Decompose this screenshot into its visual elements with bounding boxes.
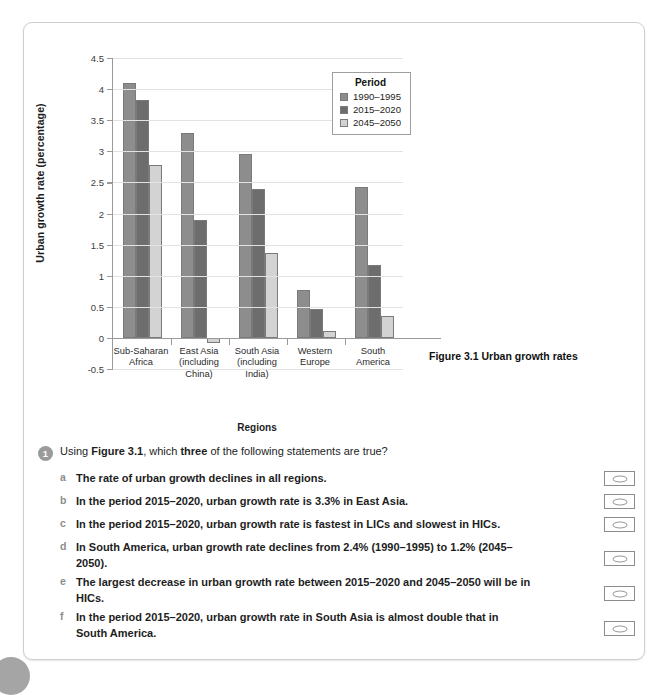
legend-swatch-icon: [340, 106, 348, 114]
y-axis-tick-label: 3.5: [91, 115, 104, 126]
answer-checkbox-d[interactable]: [604, 551, 635, 566]
grid-line: [113, 151, 403, 152]
legend-label: 2015–2020: [353, 104, 401, 115]
x-axis-extension: [403, 338, 441, 339]
answer-checkbox-c[interactable]: [604, 517, 635, 532]
answer-oval-icon: [612, 555, 627, 562]
y-axis-title: Urban growth rate (percentage): [34, 0, 46, 83]
x-axis-title: Regions: [112, 422, 402, 433]
bar: [194, 220, 207, 338]
bar: [323, 331, 336, 338]
grid-line: [113, 276, 403, 277]
x-axis-tick: [345, 338, 346, 345]
option-text: In the period 2015–2020, urban growth ra…: [76, 517, 531, 533]
x-axis-tick: [171, 338, 172, 345]
y-axis-tick: [107, 58, 113, 59]
answer-oval-icon: [612, 475, 627, 482]
bar: [149, 165, 162, 338]
answer-checkbox-e[interactable]: [604, 586, 635, 601]
y-axis-tick: [107, 307, 113, 308]
y-axis-tick: [107, 369, 113, 370]
option-letter: c: [60, 517, 72, 529]
prompt-segment: of the following statements are true?: [207, 445, 387, 457]
answer-checkbox-a[interactable]: [604, 471, 635, 486]
bar: [310, 309, 323, 338]
question-number-badge: 1: [38, 446, 53, 461]
option-letter: f: [60, 610, 72, 622]
question-prompt: Using Figure 3.1, which three of the fol…: [60, 445, 388, 457]
answer-oval-icon: [612, 498, 627, 505]
y-axis-tick: [107, 245, 113, 246]
answer-oval-icon: [612, 521, 627, 528]
y-axis-tick: [107, 120, 113, 121]
legend-item: 2045–2050: [340, 117, 401, 128]
bar: [265, 253, 278, 338]
grid-line: [113, 307, 403, 308]
option-text: In the period 2015–2020, urban growth ra…: [76, 610, 531, 641]
bar: [136, 100, 149, 338]
y-axis-tick-label: 1.5: [91, 239, 104, 250]
x-axis-tick: [229, 338, 230, 345]
legend-item: 2015–2020: [340, 104, 401, 115]
legend-swatch-icon: [340, 119, 348, 127]
y-axis-tick-label: 2: [99, 208, 104, 219]
bar: [355, 187, 368, 338]
x-axis-label-line: India): [220, 369, 294, 381]
bar: [381, 316, 394, 338]
prompt-figure-ref: Figure 3.1: [91, 445, 143, 457]
figure-chart: Urban growth rate (percentage) 4.543.532…: [24, 23, 646, 408]
option-letter: b: [60, 494, 72, 506]
bar: [297, 290, 310, 338]
y-axis-tick-label: 1: [99, 270, 104, 281]
prompt-segment: , which: [143, 445, 180, 457]
prompt-emphasis: three: [180, 445, 207, 457]
legend-label: 2045–2050: [353, 117, 401, 128]
option-text: The rate of urban growth declines in all…: [76, 471, 531, 487]
x-axis-tick: [287, 338, 288, 345]
legend-item: 1990–1995: [340, 91, 401, 102]
y-axis-tick: [107, 182, 113, 183]
answer-checkbox-b[interactable]: [604, 494, 635, 509]
option-text: In South America, urban growth rate decl…: [76, 540, 531, 571]
grid-line: [113, 245, 403, 246]
page-corner-badge: [0, 657, 30, 695]
grid-line: [113, 182, 403, 183]
answer-oval-icon: [612, 590, 627, 597]
answer-checkbox-f[interactable]: [604, 621, 635, 636]
y-axis-tick: [107, 214, 113, 215]
x-axis-line: [113, 338, 406, 339]
y-axis-tick-label: 4.5: [91, 53, 104, 64]
x-axis-label-line: America: [336, 357, 410, 369]
y-axis-tick: [107, 89, 113, 90]
answer-oval-icon: [612, 625, 627, 632]
y-axis-tick: [107, 276, 113, 277]
y-axis-tick-label: 3: [99, 146, 104, 157]
chart-legend: Period 1990–1995 2015–2020 2045–2050: [332, 72, 411, 135]
option-letter: d: [60, 540, 72, 552]
option-letter: e: [60, 575, 72, 587]
option-text: In the period 2015–2020, urban growth ra…: [76, 494, 531, 510]
option-text: The largest decrease in urban growth rat…: [76, 575, 531, 606]
y-axis-tick-label: 0: [99, 332, 104, 343]
figure-caption: Figure 3.1 Urban growth rates: [429, 350, 578, 362]
grid-line: [113, 58, 403, 59]
y-axis-tick-label: 2.5: [91, 177, 104, 188]
x-axis-category-label: SouthAmerica: [336, 346, 410, 369]
legend-title: Period: [340, 77, 401, 88]
x-axis-label-line: South: [336, 346, 410, 358]
y-axis-tick: [107, 151, 113, 152]
y-axis-tick-label: 4: [99, 84, 104, 95]
legend-label: 1990–1995: [353, 91, 401, 102]
prompt-segment: Using: [60, 445, 91, 457]
grid-line: [113, 214, 403, 215]
y-axis-tick-label: -0.5: [88, 364, 104, 375]
bar: [252, 189, 265, 338]
option-letter: a: [60, 471, 72, 483]
y-axis-tick-label: 0.5: [91, 301, 104, 312]
worksheet-card: Urban growth rate (percentage) 4.543.532…: [23, 22, 645, 660]
legend-swatch-icon: [340, 93, 348, 101]
